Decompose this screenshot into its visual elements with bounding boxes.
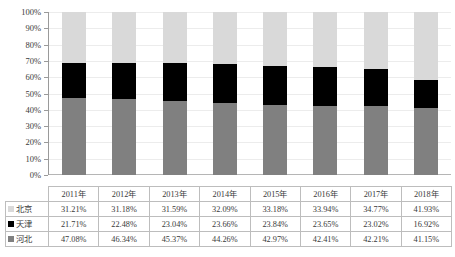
bar-segment-河北 <box>364 106 388 175</box>
legend-swatch-icon <box>8 236 14 242</box>
bar-column <box>300 12 350 175</box>
table-value-cell: 23.65% <box>300 217 350 232</box>
table-header-year: 2015年 <box>250 187 300 202</box>
legend-label: 河北 <box>16 235 32 244</box>
table-corner-cell <box>6 187 49 202</box>
bar-segment-河北 <box>414 108 438 175</box>
y-axis-tick-mark <box>44 175 48 176</box>
y-axis-labels: 100%90%80%70%60%50%40%30%20%10%0% <box>0 0 44 186</box>
table-value-cell: 42.21% <box>351 232 401 247</box>
bar-segment-天津 <box>364 69 388 107</box>
stacked-bar <box>112 12 136 175</box>
bar-column <box>200 12 250 175</box>
bars-region <box>49 12 451 175</box>
y-axis-tick-label: 50% <box>25 90 41 99</box>
table-value-cell: 23.84% <box>250 217 300 232</box>
y-axis-tick-label: 10% <box>25 155 41 164</box>
table-header-year: 2017年 <box>351 187 401 202</box>
table-header-year: 2018年 <box>401 187 451 202</box>
y-axis-tick-label: 20% <box>25 138 41 147</box>
bar-segment-天津 <box>62 63 86 98</box>
bar-segment-河北 <box>313 106 337 175</box>
bar-segment-天津 <box>112 63 136 100</box>
table-header-row: 2011年2012年2013年2014年2015年2016年2017年2018年 <box>6 187 452 202</box>
stacked-bar <box>163 12 187 175</box>
plot-area: 100%90%80%70%60%50%40%30%20%10%0% <box>0 0 455 186</box>
table-value-cell: 33.18% <box>250 202 300 217</box>
bar-segment-河北 <box>112 99 136 175</box>
stacked-column-chart-with-data-table: 100%90%80%70%60%50%40%30%20%10%0% 2011年2… <box>0 0 455 257</box>
table-value-cell: 22.48% <box>99 217 149 232</box>
legend-swatch-icon <box>8 221 14 227</box>
bar-segment-北京 <box>163 12 187 63</box>
y-axis-tick-label: 0% <box>30 171 41 180</box>
table-value-cell: 33.94% <box>300 202 350 217</box>
y-axis-tick-label: 30% <box>25 122 41 131</box>
bar-segment-河北 <box>263 105 287 175</box>
y-axis-tick-label: 70% <box>25 57 41 66</box>
legend-label: 北京 <box>16 205 32 214</box>
bar-column <box>150 12 200 175</box>
stacked-bar <box>313 12 337 175</box>
table-header-year: 2011年 <box>49 187 99 202</box>
bar-column <box>401 12 451 175</box>
bar-column <box>49 12 99 175</box>
bar-segment-河北 <box>62 98 86 175</box>
y-axis-tick-label: 90% <box>25 24 41 33</box>
table-value-cell: 32.09% <box>200 202 250 217</box>
table-value-cell: 41.93% <box>401 202 451 217</box>
stacked-bar <box>62 12 86 175</box>
bar-segment-北京 <box>313 12 337 67</box>
bar-segment-天津 <box>213 64 237 103</box>
bar-segment-天津 <box>263 66 287 105</box>
bar-segment-北京 <box>112 12 136 63</box>
table-value-cell: 31.18% <box>99 202 149 217</box>
stacked-bar <box>213 12 237 175</box>
bar-column <box>99 12 149 175</box>
table-value-cell: 34.77% <box>351 202 401 217</box>
table-value-cell: 41.15% <box>401 232 451 247</box>
table-value-cell: 23.04% <box>149 217 199 232</box>
bar-segment-天津 <box>163 63 187 101</box>
table-value-cell: 31.21% <box>49 202 99 217</box>
legend-cell-天津[interactable]: 天津 <box>6 217 49 232</box>
table-value-cell: 23.02% <box>351 217 401 232</box>
table-header-year: 2014年 <box>200 187 250 202</box>
stacked-bar <box>414 12 438 175</box>
table-row: 河北47.08%46.34%45.37%44.26%42.97%42.41%42… <box>6 232 452 247</box>
bar-segment-天津 <box>313 67 337 106</box>
bar-segment-北京 <box>364 12 388 69</box>
stacked-bar <box>263 12 287 175</box>
table-header-year: 2013年 <box>149 187 199 202</box>
table-value-cell: 16.92% <box>401 217 451 232</box>
legend-label: 天津 <box>16 220 32 229</box>
y-axis-tick-label: 100% <box>21 8 41 17</box>
table-value-cell: 45.37% <box>149 232 199 247</box>
table-value-cell: 47.08% <box>49 232 99 247</box>
table-value-cell: 31.59% <box>149 202 199 217</box>
table-value-cell: 44.26% <box>200 232 250 247</box>
table-value-cell: 42.97% <box>250 232 300 247</box>
bar-columns <box>49 12 451 175</box>
y-axis-tick-label: 80% <box>25 41 41 50</box>
table-header-year: 2016年 <box>300 187 350 202</box>
table-header-year: 2012年 <box>99 187 149 202</box>
stacked-bar <box>364 12 388 175</box>
bar-segment-北京 <box>213 12 237 64</box>
data-table: 2011年2012年2013年2014年2015年2016年2017年2018年… <box>5 186 452 247</box>
table-value-cell: 42.41% <box>300 232 350 247</box>
y-axis-tick-label: 60% <box>25 73 41 82</box>
bar-segment-北京 <box>62 12 86 63</box>
table-row: 天津21.71%22.48%23.04%23.66%23.84%23.65%23… <box>6 217 452 232</box>
legend-cell-北京[interactable]: 北京 <box>6 202 49 217</box>
table-value-cell: 46.34% <box>99 232 149 247</box>
bar-segment-河北 <box>213 103 237 175</box>
bar-segment-北京 <box>414 12 438 80</box>
bar-column <box>250 12 300 175</box>
bar-column <box>351 12 401 175</box>
bar-segment-天津 <box>414 80 438 108</box>
bar-segment-北京 <box>263 12 287 66</box>
table-value-cell: 21.71% <box>49 217 99 232</box>
legend-cell-河北[interactable]: 河北 <box>6 232 49 247</box>
y-axis-tick-label: 40% <box>25 106 41 115</box>
